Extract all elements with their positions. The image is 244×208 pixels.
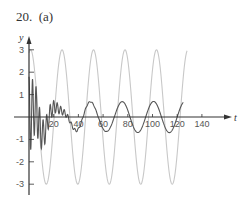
x-tick-label: 100 bbox=[145, 119, 160, 129]
y-tick-label: -3 bbox=[16, 179, 24, 189]
y-axis-arrow-icon bbox=[27, 36, 32, 44]
x-tick-label: 140 bbox=[194, 119, 209, 129]
y-tick-label: 1 bbox=[19, 90, 24, 100]
x-tick-label: 80 bbox=[123, 119, 133, 129]
x-tick-label: 60 bbox=[98, 119, 108, 129]
y-tick-label: 3 bbox=[19, 45, 24, 55]
axes: yt20406080100120140321-1-2-3 bbox=[14, 32, 237, 195]
x-tick-label: 120 bbox=[170, 119, 185, 129]
y-tick-label: 2 bbox=[19, 67, 24, 77]
y-tick-label: -2 bbox=[16, 157, 24, 167]
x-axis-label: t bbox=[234, 112, 237, 123]
line-chart: yt20406080100120140321-1-2-3 bbox=[0, 0, 244, 208]
y-axis-label: y bbox=[18, 32, 24, 43]
y-tick-label: -1 bbox=[16, 134, 24, 144]
x-tick-label: 20 bbox=[49, 119, 59, 129]
x-axis-arrow-icon bbox=[224, 115, 232, 120]
x-tick-label: 40 bbox=[73, 119, 83, 129]
